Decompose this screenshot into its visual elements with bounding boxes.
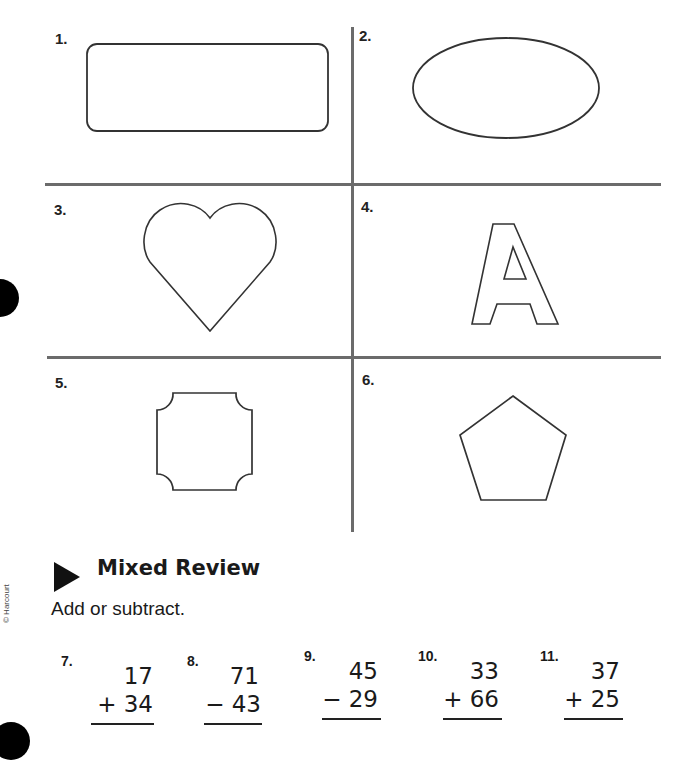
copyright-notice: © Harcourt [2, 584, 11, 623]
problem-bottom-number: 25 [591, 686, 620, 712]
cell-number: 6. [362, 371, 375, 388]
problem-number: 9. [304, 648, 316, 664]
problem-top-number: 37 [591, 658, 620, 684]
problem-bottom-number: 29 [349, 686, 378, 712]
problem-bottom-row: − 43 [205, 691, 261, 717]
cell-number: 2. [359, 27, 372, 44]
operator: − [322, 686, 341, 712]
cell-number: 4. [361, 198, 374, 215]
letter-a-shape [470, 222, 562, 326]
answer-line [204, 723, 262, 725]
grid-vertical-divider [351, 27, 354, 532]
problem-bottom-row: + 25 [564, 686, 620, 712]
answer-line [564, 718, 623, 720]
operator: + [443, 686, 462, 712]
answer-line [443, 718, 502, 720]
problem-bottom-number: 43 [232, 691, 261, 717]
problem-number: 11. [540, 648, 559, 664]
grid-horizontal-divider [45, 183, 661, 186]
problem-top-number: 45 [349, 658, 378, 684]
problem-10: 10. 33 + 66 [418, 648, 502, 724]
rounded-rectangle-shape [85, 42, 331, 134]
problem-number: 10. [418, 648, 437, 664]
problem-11: 11. 37 + 25 [540, 648, 623, 724]
answer-line [322, 718, 381, 720]
cell-number: 3. [54, 201, 67, 218]
problem-top-number: 33 [470, 658, 499, 684]
problem-number: 7. [61, 653, 73, 669]
section-arrow-icon [53, 561, 81, 593]
binder-hole [0, 279, 19, 317]
operator: − [205, 691, 224, 717]
instruction-text: Add or subtract. [51, 598, 185, 620]
problem-bottom-number: 66 [470, 686, 499, 712]
problem-bottom-row: − 29 [322, 686, 378, 712]
cell-number: 5. [55, 374, 68, 391]
heart-shape [140, 200, 280, 336]
operator: + [97, 691, 116, 717]
problem-bottom-number: 34 [124, 691, 153, 717]
problem-8: 8. 71 − 43 [187, 653, 262, 729]
problem-number: 8. [187, 653, 199, 669]
cell-number: 1. [55, 30, 68, 47]
problem-9: 9. 45 − 29 [304, 648, 381, 724]
oval-shape [410, 36, 602, 140]
problem-top-number: 71 [230, 663, 259, 689]
answer-line [91, 723, 154, 725]
operator: + [564, 686, 583, 712]
grid-horizontal-divider [47, 356, 661, 359]
problem-top-number: 17 [124, 663, 153, 689]
problem-7: 7. 17 + 34 [61, 653, 154, 729]
binder-hole [0, 722, 30, 760]
scalloped-square-shape [155, 390, 255, 494]
problem-bottom-row: + 34 [97, 691, 153, 717]
pentagon-shape [457, 394, 569, 504]
problem-bottom-row: + 66 [443, 686, 499, 712]
mixed-review-title: Mixed Review [97, 556, 260, 580]
